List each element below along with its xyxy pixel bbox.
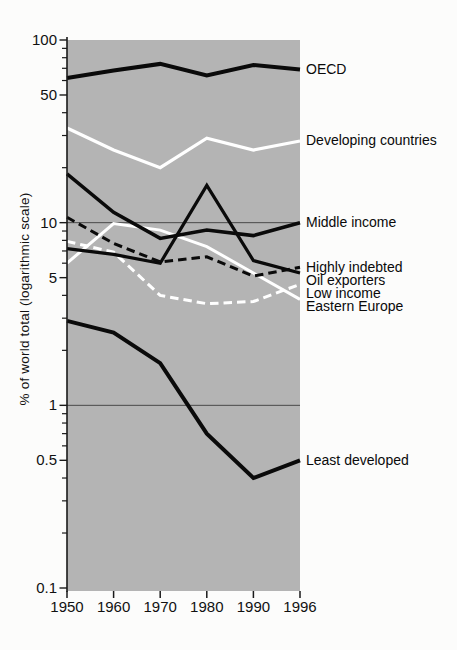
log-line-chart: 1005010510.50.1195019601970198019901996 [0, 0, 457, 650]
figure-share-of-world-total: 1005010510.50.1195019601970198019901996 … [0, 0, 457, 650]
series-label-least-developed: Least developed [306, 453, 409, 468]
y-tick-label-5: 5 [49, 269, 57, 286]
x-tick-label-1980: 1980 [190, 598, 223, 615]
x-tick-label-1990: 1990 [237, 598, 270, 615]
plot-area [67, 40, 300, 591]
x-tick-label-1960: 1960 [97, 598, 130, 615]
y-tick-label-50: 50 [40, 86, 57, 103]
y-tick-label-100: 100 [32, 31, 57, 48]
x-tick-label-1950: 1950 [50, 598, 83, 615]
y-tick-label-1: 1 [49, 396, 57, 413]
x-tick-label-1970: 1970 [144, 598, 177, 615]
y-tick-label-0.5: 0.5 [36, 451, 57, 468]
series-label-eastern-europe: Eastern Europe [306, 299, 403, 314]
series-label-middle-income: Middle income [306, 215, 396, 230]
series-label-developing-countries: Developing countries [306, 133, 437, 148]
series-label-oecd: OECD [306, 62, 346, 77]
y-tick-label-10: 10 [40, 214, 57, 231]
y-tick-label-0.1: 0.1 [36, 579, 57, 596]
x-tick-label-1996: 1996 [283, 598, 316, 615]
y-axis-title: % of world total (logarithmic scale) [17, 193, 32, 406]
